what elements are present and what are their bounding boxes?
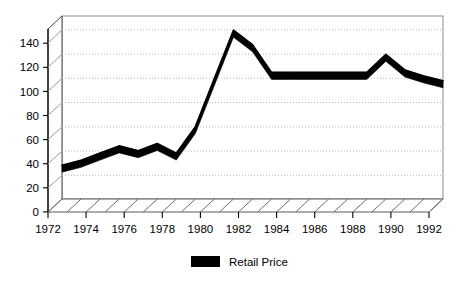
y-tick-label: 140 — [20, 37, 39, 49]
y-tick-label: 0 — [33, 206, 39, 218]
x-tick-label: 1986 — [302, 223, 328, 235]
x-tick-label: 1974 — [73, 223, 99, 235]
y-tick-label: 120 — [20, 61, 39, 73]
y-tick-label: 20 — [26, 182, 39, 194]
x-axis-tick-labels: 1972 1974 1976 1978 1980 1982 1984 1986 … — [35, 223, 442, 235]
y-tick-label: 100 — [20, 86, 39, 98]
legend-label-retail-price: Retail Price — [229, 256, 288, 268]
legend-swatch-retail-price — [191, 256, 220, 267]
chart-floor-3d — [48, 199, 443, 212]
y-tick-label: 80 — [26, 110, 39, 122]
x-tick-label: 1990 — [378, 223, 404, 235]
retail-price-line-chart: 140 120 100 80 60 40 20 0 — [0, 0, 469, 283]
chart-container: 140 120 100 80 60 40 20 0 — [0, 0, 469, 283]
legend: Retail Price — [191, 256, 288, 268]
x-tick-label: 1992 — [416, 223, 442, 235]
x-tick-label: 1976 — [111, 223, 137, 235]
x-tick-label: 1988 — [340, 223, 366, 235]
x-tick-label: 1980 — [188, 223, 214, 235]
x-tick-label: 1972 — [35, 223, 61, 235]
x-tick-label: 1978 — [150, 223, 176, 235]
x-tick-label: 1982 — [226, 223, 252, 235]
y-tick-label: 40 — [26, 158, 39, 170]
x-tick-label: 1984 — [264, 223, 290, 235]
y-tick-label: 60 — [26, 134, 39, 146]
